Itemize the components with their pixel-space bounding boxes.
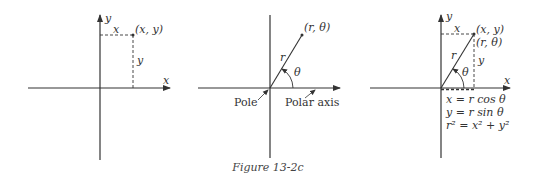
vertical-dash-label: y [477, 54, 485, 67]
pole-pointer [258, 90, 268, 100]
radius-line [441, 34, 474, 88]
radius-label: r [451, 49, 457, 62]
horizontal-dash-label: x [454, 22, 461, 35]
diagram-rectangular: y x x y (x, y) [28, 12, 170, 160]
angle-label: θ [294, 66, 301, 79]
y-axis-label: y [104, 12, 112, 25]
point-label: (r, θ) [304, 21, 330, 34]
figure-canvas: y x x y (x, y) (r, θ) r θ Pole Polar axi… [0, 0, 537, 184]
diagram-polar: (r, θ) r θ Pole Polar axis [198, 15, 340, 158]
x-axis-label: x [504, 74, 511, 87]
equation-y: y = r sin θ [445, 106, 504, 119]
radius-label: r [280, 51, 286, 64]
point-polar-label: (r, θ) [476, 36, 502, 49]
vertical-dash-label: y [136, 54, 144, 67]
point-rect-label: (x, y) [476, 23, 504, 36]
point-label: (x, y) [135, 23, 163, 36]
angle-arc [282, 69, 293, 88]
diagram-combined: y x x (x, y) (r, θ) y r θ x = r cos θ y … [370, 10, 511, 158]
x-axis-label: x [163, 74, 170, 87]
y-axis-label: y [445, 10, 453, 23]
angle-label: θ [462, 66, 469, 79]
equation-r: r² = x² + y² [446, 119, 509, 132]
horizontal-dash-label: x [113, 23, 120, 36]
figure-caption: Figure 13-2c [231, 161, 303, 174]
equation-x: x = r cos θ [446, 93, 506, 106]
polar-axis-label: Polar axis [285, 96, 340, 109]
radius-line [270, 35, 302, 88]
pole-label: Pole [234, 96, 258, 109]
